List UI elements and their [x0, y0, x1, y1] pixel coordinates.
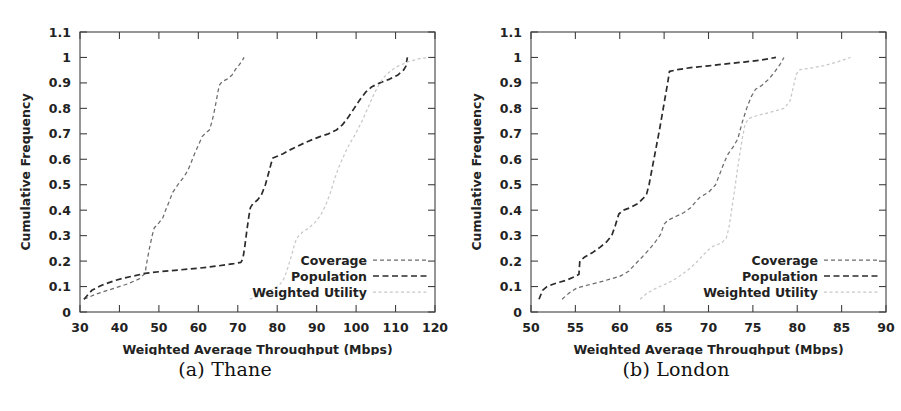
- y-axis-tick-label: 0.7: [500, 126, 522, 141]
- legend-label-population: Population: [291, 269, 367, 284]
- x-axis-tick-label: 90: [308, 320, 326, 335]
- x-axis-tick-label: 120: [422, 320, 448, 335]
- y-axis-title: Cumulative Frequency: [469, 93, 484, 250]
- panel-caption-thane: (a) Thane: [0, 358, 450, 380]
- plot-frame: [531, 32, 886, 312]
- y-axis-tick-label: 0.1: [500, 279, 522, 294]
- x-axis-tick-label: 85: [833, 320, 850, 335]
- legend-label-coverage: Coverage: [301, 253, 367, 268]
- x-axis-tick-label: 60: [611, 320, 629, 335]
- y-axis-tick-label: 0.9: [500, 75, 522, 90]
- x-axis-tick-label: 30: [71, 320, 89, 335]
- y-axis-tick-label: 0.4: [49, 203, 71, 218]
- y-axis-tick-label: 0.8: [500, 101, 522, 116]
- y-axis-tick-label: 0.9: [49, 75, 71, 90]
- y-axis-tick-label: 1.1: [500, 25, 522, 40]
- x-axis-tick-label: 40: [111, 320, 129, 335]
- y-axis-tick-label: 1: [62, 50, 71, 65]
- x-axis-tick-label: 50: [522, 320, 540, 335]
- legend-label-population: Population: [742, 269, 818, 284]
- x-axis-tick-label: 65: [655, 320, 672, 335]
- chart-panel-london: 00.10.20.30.40.50.60.70.80.911.150556065…: [451, 0, 901, 411]
- y-axis-tick-label: 0.6: [49, 152, 71, 167]
- y-axis-tick-label: 0.2: [500, 254, 522, 269]
- chart-panel-thane: 00.10.20.30.40.50.60.70.80.911.130405060…: [0, 0, 450, 411]
- y-axis-tick-label: 1.1: [49, 25, 71, 40]
- series-line-coverage: [84, 57, 244, 299]
- x-axis-tick-label: 110: [383, 320, 409, 335]
- x-axis-tick-label: 70: [229, 320, 247, 335]
- y-axis-tick-label: 0.3: [500, 228, 522, 243]
- plot-frame: [80, 32, 435, 312]
- y-axis-tick-label: 0.3: [49, 228, 71, 243]
- series-line-weighted-utility: [640, 57, 850, 299]
- y-axis-tick-label: 0.6: [500, 152, 522, 167]
- y-axis-tick-label: 0.8: [49, 101, 71, 116]
- y-axis-tick-label: 1: [513, 50, 522, 65]
- y-axis-tick-label: 0.1: [49, 279, 71, 294]
- x-axis-tick-label: 55: [567, 320, 584, 335]
- legend-label-weighted-utility: Weighted Utility: [252, 285, 367, 300]
- x-axis-tick-label: 100: [343, 320, 369, 335]
- y-axis-tick-label: 0.5: [500, 177, 522, 192]
- y-axis-tick-label: 0.2: [49, 254, 71, 269]
- x-axis-title: Weighted Average Throughput (Mbps): [122, 342, 392, 355]
- plot-area-thane: 00.10.20.30.40.50.60.70.80.911.130405060…: [0, 0, 450, 355]
- x-axis-tick-label: 60: [190, 320, 208, 335]
- series-line-population: [539, 57, 776, 299]
- y-axis-tick-label: 0.5: [49, 177, 71, 192]
- figure-container: 00.10.20.30.40.50.60.70.80.911.130405060…: [0, 0, 901, 411]
- x-axis-tick-label: 50: [150, 320, 168, 335]
- panel-caption-london: (b) London: [451, 358, 901, 380]
- y-axis-tick-label: 0.7: [49, 126, 71, 141]
- x-axis-tick-label: 70: [700, 320, 718, 335]
- x-axis-title: Weighted Average Throughput (Mbps): [573, 342, 843, 355]
- y-axis-tick-label: 0: [62, 305, 71, 320]
- x-axis-tick-label: 80: [789, 320, 807, 335]
- x-axis-tick-label: 90: [877, 320, 895, 335]
- x-axis-tick-label: 75: [744, 320, 761, 335]
- legend-label-weighted-utility: Weighted Utility: [703, 285, 818, 300]
- plot-area-london: 00.10.20.30.40.50.60.70.80.911.150556065…: [451, 0, 901, 355]
- y-axis-title: Cumulative Frequency: [18, 93, 33, 250]
- y-axis-tick-label: 0.4: [500, 203, 522, 218]
- x-axis-tick-label: 80: [269, 320, 287, 335]
- legend-label-coverage: Coverage: [752, 253, 818, 268]
- y-axis-tick-label: 0: [513, 305, 522, 320]
